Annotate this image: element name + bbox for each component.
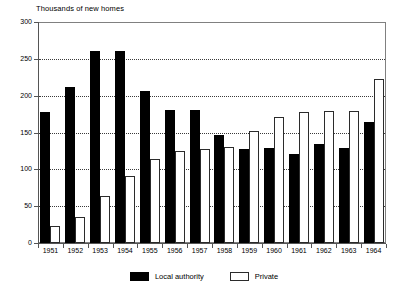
bar-1956-private [175,151,185,243]
bar-1955-private [150,159,160,243]
y-tick-text: 150 [4,129,32,136]
x-tick-label-1958: 1958 [212,247,237,255]
legend-swatch-local-authority-icon [130,272,149,281]
bar-1952-private [75,217,85,243]
x-tick-label-1963: 1963 [336,247,361,255]
bar-1956-local-authority [165,110,175,243]
legend-label-local-authority: Local authority [155,272,204,281]
legend-item-local-authority: Local authority [130,272,204,281]
bar-1962-local-authority [314,144,324,243]
x-tick-label-1964: 1964 [361,247,386,255]
x-tick-label-1956: 1956 [162,247,187,255]
bar-1961-local-authority [289,154,299,243]
bar-1955-local-authority [140,91,150,243]
y-tick-label-150: 150 [0,129,32,136]
y-tick-text: 0 [4,239,32,246]
bar-1951-local-authority [40,112,50,243]
bar-1958-local-authority [214,135,224,243]
y-tick-text: 200 [4,92,32,99]
x-tick-label-1960: 1960 [262,247,287,255]
x-tick-mark-end [386,244,387,248]
legend-swatch-private-icon [230,272,249,281]
bar-1958-private [224,147,234,244]
x-tick-label-1959: 1959 [237,247,262,255]
bar-1963-private [349,111,359,243]
bar-1954-private [125,176,135,243]
y-tick-text: 50 [4,202,32,209]
bar-1952-local-authority [65,87,75,243]
bar-1954-local-authority [115,51,125,243]
bar-1953-private [100,196,110,243]
chart-title: Thousands of new homes [36,4,124,13]
x-tick-label-1954: 1954 [113,247,138,255]
x-tick-label-1961: 1961 [287,247,312,255]
bar-1951-private [50,226,60,243]
bar-1964-local-authority [364,122,374,243]
legend-label-private: Private [255,272,278,281]
y-tick-label-0: 0 [0,239,32,246]
bar-1959-local-authority [239,149,249,243]
y-tick-text: 250 [4,55,32,62]
legend-item-private: Private [230,272,278,281]
x-tick-label-1955: 1955 [137,247,162,255]
bar-1957-local-authority [190,110,200,243]
bar-1957-private [200,149,210,243]
x-tick-label-1953: 1953 [88,247,113,255]
x-tick-label-1957: 1957 [187,247,212,255]
y-tick-label-250: 250 [0,55,32,62]
bar-1961-private [299,112,309,243]
bar-1962-private [324,111,334,243]
bar-1959-private [249,131,259,243]
x-tick-label-1951: 1951 [38,247,63,255]
chart-legend: Local authority Private [0,272,408,281]
x-tick-label-1952: 1952 [63,247,88,255]
y-tick-label-100: 100 [0,165,32,172]
bars-layer [38,22,386,243]
bar-chart: Thousands of new homes 30025020015010050… [0,0,408,299]
y-tick-label-50: 50 [0,202,32,209]
x-tick-label-1962: 1962 [311,247,336,255]
bar-1960-private [274,117,284,243]
y-tick-label-200: 200 [0,92,32,99]
y-tick-text: 100 [4,165,32,172]
bar-1960-local-authority [264,148,274,243]
bar-1964-private [374,79,384,243]
bar-1963-local-authority [339,148,349,243]
y-tick-text: 300 [4,18,32,25]
y-tick-label-300: 300 [0,18,32,25]
bar-1953-local-authority [90,51,100,243]
